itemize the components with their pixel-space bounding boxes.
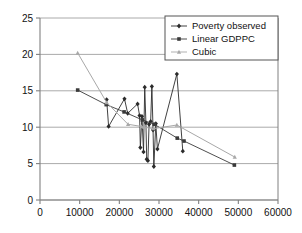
data-point <box>181 149 185 154</box>
data-point <box>182 139 186 143</box>
data-point <box>76 88 80 92</box>
data-point <box>138 145 142 150</box>
x-tick-label: 50000 <box>224 207 252 218</box>
data-point <box>177 37 181 41</box>
data-point <box>122 110 126 114</box>
y-tick-label: 10 <box>22 122 34 133</box>
y-tick-label: 25 <box>22 13 34 24</box>
data-point <box>152 164 156 169</box>
data-point <box>141 118 145 122</box>
series-1 <box>105 72 185 169</box>
x-tick-label: 10000 <box>66 207 94 218</box>
legend-label: Cubic <box>192 46 217 57</box>
legend-label: Poverty observed <box>192 20 266 31</box>
series-3 <box>76 51 237 159</box>
data-point <box>175 136 179 140</box>
data-point <box>143 85 147 90</box>
x-tick-label: 40000 <box>185 207 213 218</box>
x-tick-label: 20000 <box>105 207 133 218</box>
x-tick-label: 60000 <box>264 207 292 218</box>
y-tick-label: 20 <box>22 49 34 60</box>
data-point <box>152 122 156 126</box>
data-point <box>76 51 80 55</box>
y-tick-label: 15 <box>22 85 34 96</box>
series-line <box>78 53 235 157</box>
x-tick-label: 0 <box>37 207 43 218</box>
chart-container: 0510152025010000200003000040000500006000… <box>0 0 302 233</box>
data-point <box>233 163 237 167</box>
poverty-gdppc-line-chart: 0510152025010000200003000040000500006000… <box>0 0 302 233</box>
data-point <box>141 150 145 155</box>
data-point <box>150 84 154 89</box>
y-tick-label: 5 <box>27 158 33 169</box>
data-point <box>155 147 159 152</box>
y-tick-label: 0 <box>27 195 33 206</box>
x-tick-label: 30000 <box>145 207 173 218</box>
legend-label: Linear GDPPC <box>192 33 255 44</box>
data-point <box>175 72 179 77</box>
legend: Poverty observedLinear GDPPCCubic <box>165 16 278 60</box>
